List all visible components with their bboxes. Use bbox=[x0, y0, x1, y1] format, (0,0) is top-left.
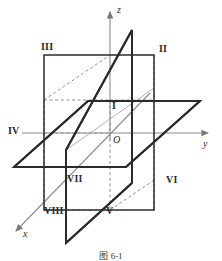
octant-diagram bbox=[0, 0, 222, 261]
figure-caption: 图 6-1 bbox=[0, 249, 222, 261]
octant-label-v: V bbox=[106, 206, 113, 216]
plane-xoy bbox=[14, 101, 200, 167]
figure-container: III II I IV VI VII VIII V O z y x 图 6-1 bbox=[0, 0, 222, 261]
z-axis-label: z bbox=[117, 5, 121, 15]
x-axis-label: x bbox=[23, 229, 27, 239]
octant-label-i: I bbox=[112, 101, 116, 111]
octant-label-iii: III bbox=[41, 42, 53, 52]
octant-label-ii: II bbox=[159, 44, 167, 54]
octant-label-viii: VIII bbox=[44, 206, 64, 216]
octant-label-vii: VII bbox=[67, 174, 83, 184]
octant-label-vi: VI bbox=[166, 175, 178, 185]
octant-label-iv: IV bbox=[8, 126, 20, 136]
plane-xoz bbox=[66, 30, 132, 243]
y-axis-label: y bbox=[203, 139, 207, 149]
origin-label: O bbox=[113, 135, 120, 145]
